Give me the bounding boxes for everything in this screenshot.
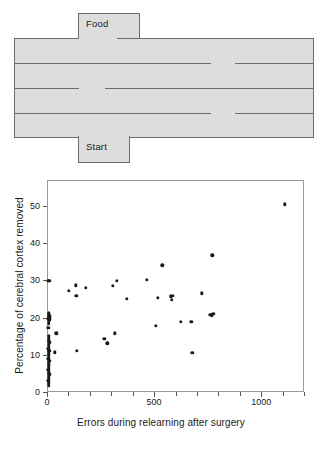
data-point — [190, 320, 193, 323]
data-point — [84, 286, 87, 289]
y-tick-label: 50 — [22, 201, 40, 211]
data-point — [47, 384, 50, 387]
x-tick-mark — [218, 392, 219, 396]
y-axis-title: Percentage of cerebral cortex removed — [14, 186, 25, 386]
x-tick-mark — [240, 392, 241, 396]
y-tick-label: 40 — [22, 238, 40, 248]
x-axis-title: Errors during relearning after surgery — [0, 417, 322, 428]
maze-wall-3a — [14, 113, 211, 114]
maze-start-label: Start — [86, 141, 107, 152]
data-point — [47, 326, 50, 329]
y-tick-mark — [43, 355, 47, 356]
x-tick-mark — [176, 392, 177, 396]
x-tick-mark — [111, 392, 112, 396]
y-tick-mark — [43, 243, 47, 244]
data-point — [48, 279, 51, 282]
y-tick-mark — [43, 392, 47, 393]
data-point — [115, 279, 118, 282]
data-point — [75, 349, 78, 352]
data-point — [211, 254, 214, 257]
data-point — [179, 320, 182, 323]
data-point — [160, 264, 163, 267]
y-tick-mark — [43, 280, 47, 281]
data-point — [154, 324, 157, 327]
y-tick-label: 20 — [22, 313, 40, 323]
data-point — [102, 337, 105, 340]
x-tick-label: 0 — [44, 397, 49, 407]
scatter-chart: 05001000 01020304050 Errors during relea… — [0, 172, 322, 462]
x-tick-label: 500 — [147, 397, 162, 407]
data-point — [200, 292, 203, 295]
maze-wall-3b — [235, 113, 314, 114]
data-point — [156, 296, 159, 299]
y-tick-label: 30 — [22, 275, 40, 285]
data-point — [212, 312, 215, 315]
x-tick-label: 1000 — [251, 397, 271, 407]
plot-frame — [47, 180, 304, 392]
maze-wall-1b — [235, 63, 314, 64]
x-tick-mark — [68, 392, 69, 396]
data-point — [53, 351, 56, 354]
x-tick-mark — [283, 392, 284, 396]
data-point — [190, 351, 193, 354]
data-point — [54, 332, 57, 335]
maze-wall-2a — [14, 88, 79, 89]
y-tick-mark — [43, 206, 47, 207]
maze-wall-1a — [14, 63, 211, 64]
x-tick-mark — [133, 392, 134, 396]
data-point — [74, 283, 77, 286]
plot-data-points — [48, 181, 303, 391]
y-tick-label: 0 — [22, 387, 40, 397]
data-point — [125, 297, 128, 300]
data-point — [111, 284, 114, 287]
x-tick-mark — [197, 392, 198, 396]
data-point — [75, 294, 78, 297]
data-point — [145, 278, 148, 281]
data-point — [113, 331, 116, 334]
maze-diagram: Food Start — [0, 0, 322, 172]
maze-food-label: Food — [86, 18, 108, 29]
data-point — [171, 294, 174, 297]
maze-wall-2b — [105, 88, 314, 89]
data-point — [283, 203, 286, 206]
start-opening-gap — [79, 135, 117, 139]
data-point — [67, 289, 70, 292]
y-tick-label: 10 — [22, 350, 40, 360]
x-tick-mark — [304, 392, 305, 396]
data-point — [106, 341, 109, 344]
y-tick-mark — [43, 318, 47, 319]
food-opening-gap — [79, 36, 117, 40]
x-tick-mark — [90, 392, 91, 396]
data-point — [170, 298, 173, 301]
